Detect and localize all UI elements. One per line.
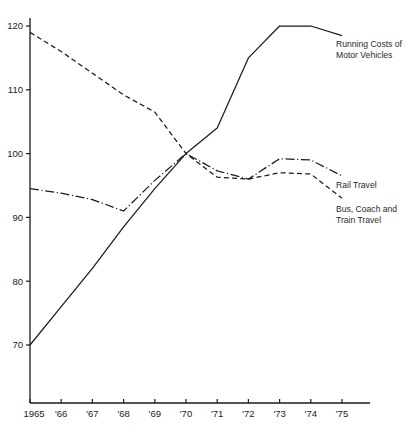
series-lines [30,26,342,345]
x-tick-label: '72 [242,408,254,419]
y-tick-label: 80 [12,276,23,287]
y-tick-label: 90 [12,212,23,223]
series-line-rail-travel [30,154,342,211]
y-tick-label: 70 [12,339,23,350]
y-tick-label: 120 [7,20,23,31]
series-line-bus-coach-train [30,32,342,198]
line-chart: 708090100110120 1965'66'67'68'69'70'71'7… [0,0,408,432]
x-tick-label: '68 [117,408,129,419]
x-tick-label: '70 [180,408,192,419]
x-tick-label: 1965 [23,408,44,419]
x-tick-label: '66 [55,408,67,419]
annotation-running-costs-line2: Motor Vehicles [336,50,392,60]
annotation-running-costs-line1: Running Costs of [336,39,403,49]
x-tick-label: '74 [305,408,317,419]
y-axis-ticks: 708090100110120 [7,20,30,350]
annotation-bus-coach-train-line2: Train Travel [336,215,381,225]
chart-annotations: Running Costs of Motor Vehicles Rail Tra… [336,39,403,225]
y-tick-label: 110 [8,84,23,95]
annotation-bus-coach-train-line1: Bus, Coach and [336,204,397,214]
x-tick-label: '69 [149,408,161,419]
series-line-running-costs [30,26,342,345]
annotation-rail-travel: Rail Travel [336,180,377,190]
x-tick-label: '67 [86,408,98,419]
x-tick-label: '73 [273,408,285,419]
x-tick-label: '71 [211,408,223,419]
y-axis: 708090100110120 [7,18,30,403]
x-axis: 1965'66'67'68'69'70'71'72'73'74'75 [23,399,370,419]
x-axis-ticks: 1965'66'67'68'69'70'71'72'73'74'75 [23,399,348,419]
x-tick-label: '75 [336,408,348,419]
chart-container: 708090100110120 1965'66'67'68'69'70'71'7… [0,0,408,432]
y-tick-label: 100 [7,148,23,159]
